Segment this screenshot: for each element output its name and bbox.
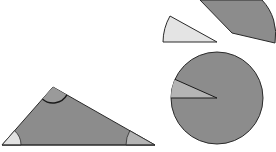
triangle [2, 87, 155, 145]
light-sector [163, 16, 217, 42]
diagram-svg [0, 0, 276, 152]
dark-sector [200, 0, 276, 43]
diagram-canvas [0, 0, 276, 152]
right-angle-sector [126, 131, 155, 145]
circle-diagram [171, 52, 263, 144]
